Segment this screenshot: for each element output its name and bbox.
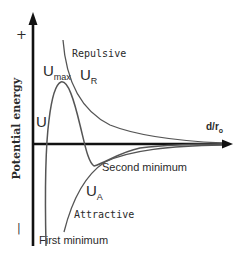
second-minimum-label: Second minimum	[102, 162, 187, 173]
umax-label: Umax	[43, 63, 71, 82]
attractive-label: Attractive	[74, 210, 134, 220]
x-axis-label-main: d/r	[206, 121, 219, 132]
ur-label-sub: R	[91, 76, 98, 86]
ur-label-main: U	[80, 66, 91, 83]
umax-label-main: U	[43, 62, 54, 79]
x-axis-label: d/ro	[206, 122, 223, 134]
ua-label: UA	[86, 183, 103, 202]
y-axis-plus-label: +	[16, 28, 27, 41]
ua-label-sub: A	[97, 192, 103, 202]
first-minimum-label: First minimum	[39, 235, 108, 246]
umax-label-sub: max	[54, 72, 71, 82]
total-curve-label: U	[36, 114, 47, 129]
y-axis-minus-label: |	[17, 222, 21, 233]
x-axis-arrow-icon	[222, 140, 233, 149]
x-axis-label-sub: o	[219, 127, 223, 134]
y-axis-label: Potential energy	[11, 80, 22, 180]
ua-label-main: U	[86, 182, 97, 199]
y-axis-arrow-icon	[29, 12, 38, 25]
repulsive-label: Repulsive	[72, 49, 126, 59]
ur-label: UR	[80, 67, 97, 86]
